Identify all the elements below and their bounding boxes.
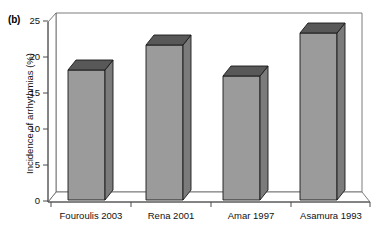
x-tick-label-group: Fouroulis 2003 Rena 2001 Amar 1997 Asamu…	[0, 0, 376, 232]
x-tick-label-asamura-1993: Asamura 1993	[281, 211, 376, 221]
figure-panel-b: (b) Incidence of arrhythmias (%)	[0, 0, 376, 232]
